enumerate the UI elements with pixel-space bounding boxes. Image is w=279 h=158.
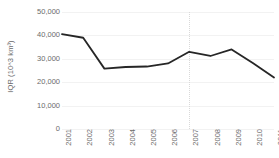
x-axis-tick-labels: 2001200220032004200520062007200820092010… (62, 129, 274, 158)
x-tick-label: 2007 (192, 129, 200, 146)
x-tick-label: 2004 (129, 129, 137, 146)
y-axis-tick-labels: 50,00040,00030,00020,00010,0000 (14, 0, 60, 158)
x-tick-label: 2002 (86, 129, 94, 146)
x-tick-label: 2005 (150, 129, 158, 146)
y-tick-label: 0 (14, 125, 60, 133)
x-tick-label: 2009 (235, 129, 243, 146)
y-tick-label: 40,000 (14, 32, 60, 40)
x-tick-label: 2003 (108, 129, 116, 146)
plot-area (62, 12, 274, 129)
x-tick-label: 2001 (65, 129, 73, 146)
x-tick-label: 2010 (256, 129, 264, 146)
line-chart: IQR (10^3 km³) 50,00040,00030,00020,0001… (0, 0, 279, 158)
y-tick-label: 10,000 (14, 102, 60, 110)
series-iqr (62, 12, 274, 129)
x-tick-label: 2006 (171, 129, 179, 146)
x-tick-label: 2011 (277, 129, 279, 145)
y-tick-label: 20,000 (14, 78, 60, 86)
y-tick-label: 30,000 (14, 55, 60, 63)
x-tick-label: 2008 (214, 129, 222, 146)
y-tick-label: 50,000 (14, 8, 60, 16)
series-iqr-line (62, 34, 274, 77)
